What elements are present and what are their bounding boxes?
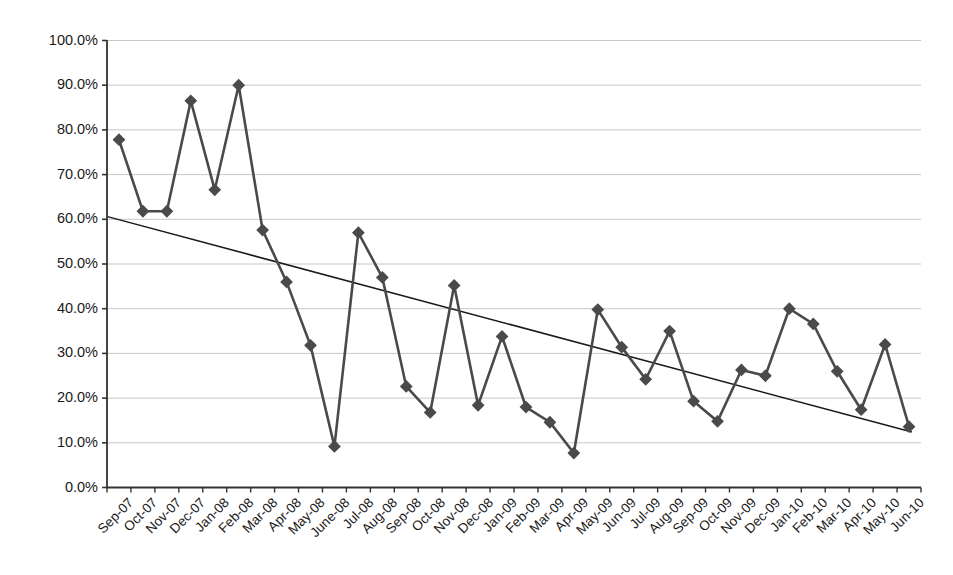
data-point-marker <box>257 225 268 236</box>
y-axis-label: 40.0% <box>57 300 98 316</box>
y-axis-label: 20.0% <box>57 389 98 405</box>
data-point-marker <box>377 272 388 283</box>
line-chart-plot <box>0 0 953 575</box>
data-point-marker <box>473 400 484 411</box>
data-point-marker <box>138 206 149 217</box>
data-point-marker <box>449 280 460 291</box>
data-point-marker <box>233 80 244 91</box>
data-point-marker <box>664 326 675 337</box>
y-axis-label: 60.0% <box>57 210 98 226</box>
trendline <box>107 217 911 432</box>
y-axis-label: 0.0% <box>65 479 98 495</box>
data-point-marker <box>185 95 196 106</box>
chart-container: 0.0%10.0%20.0%30.0%40.0%50.0%60.0%70.0%8… <box>0 0 953 575</box>
y-axis-label: 70.0% <box>57 166 98 182</box>
data-point-marker <box>209 184 220 195</box>
data-point-marker <box>281 276 292 287</box>
data-point-marker <box>760 370 771 381</box>
y-axis-label: 100.0% <box>49 32 98 48</box>
y-axis-label: 90.0% <box>57 76 98 92</box>
y-axis-label: 80.0% <box>57 121 98 137</box>
data-point-marker <box>114 134 125 145</box>
y-axis-label: 50.0% <box>57 255 98 271</box>
data-point-marker <box>736 365 747 376</box>
data-point-marker <box>305 340 316 351</box>
data-point-marker <box>161 206 172 217</box>
data-point-marker <box>353 227 364 238</box>
data-point-marker <box>497 331 508 342</box>
data-point-marker <box>880 339 891 350</box>
y-axis-label: 30.0% <box>57 344 98 360</box>
y-axis-label: 10.0% <box>57 434 98 450</box>
